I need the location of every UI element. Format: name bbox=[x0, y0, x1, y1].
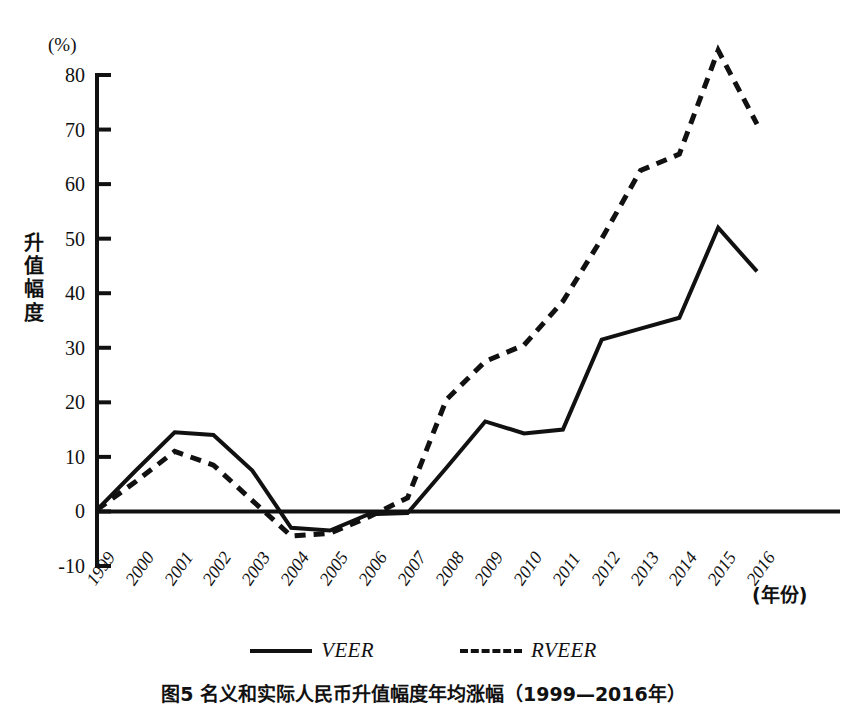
legend-entry-rveer: RVEER bbox=[460, 638, 597, 663]
legend-swatch-solid-line-icon bbox=[250, 649, 312, 653]
legend-swatch-dashed-line-icon bbox=[460, 649, 522, 653]
y-axis-ticks bbox=[97, 75, 111, 566]
series-line-rveer bbox=[97, 50, 757, 536]
legend-entry-veer: VEER bbox=[250, 638, 374, 663]
axis-lines bbox=[95, 75, 840, 566]
legend-label-veer: VEER bbox=[321, 638, 374, 663]
plot-area bbox=[0, 0, 847, 620]
figure-caption: 图5 名义和实际人民币升值幅度年均涨幅（1999—2016年） bbox=[0, 679, 847, 706]
chart-legend: VEER RVEER bbox=[0, 638, 847, 663]
legend-label-rveer: RVEER bbox=[531, 638, 597, 663]
data-series bbox=[97, 50, 757, 536]
series-line-veer bbox=[97, 228, 757, 531]
